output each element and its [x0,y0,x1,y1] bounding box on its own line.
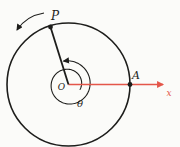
angle-theta-label: θ [77,98,83,109]
point-A-label: A [131,69,140,82]
terminal-side-OP [51,27,69,85]
counterclockwise-arrow [17,13,44,30]
point-P-dot [48,25,53,30]
point-P-label: P [50,9,60,23]
diagram-stage: PAOθx [0,0,180,147]
angle-diagram-figure: PAOθx [0,0,180,147]
x-axis-label: x [166,88,171,98]
origin-O-label: O [58,82,66,92]
point-A-dot [128,82,133,87]
